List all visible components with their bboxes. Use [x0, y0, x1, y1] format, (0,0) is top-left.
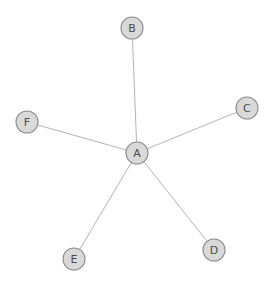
node-label-f: F: [24, 116, 31, 129]
graph-node-e[interactable]: E: [63, 248, 85, 270]
graph-svg: ABCDEF: [0, 0, 276, 283]
graph-node-c[interactable]: C: [236, 97, 258, 119]
graph-node-d[interactable]: D: [203, 239, 225, 261]
graph-edge-a-d: [144, 162, 207, 242]
graph-node-b[interactable]: B: [121, 17, 143, 39]
graph-canvas: ABCDEF: [0, 0, 276, 283]
node-layer: ABCDEF: [16, 17, 258, 270]
node-label-b: B: [128, 22, 136, 35]
graph-edge-a-e: [80, 162, 132, 249]
node-label-a: A: [133, 147, 141, 160]
node-label-d: D: [210, 244, 219, 257]
node-label-e: E: [70, 253, 77, 266]
graph-edge-a-f: [38, 125, 127, 150]
graph-edge-a-b: [132, 39, 136, 142]
graph-edge-a-c: [147, 112, 237, 149]
graph-node-f[interactable]: F: [16, 111, 38, 133]
node-label-c: C: [243, 102, 251, 115]
graph-node-a[interactable]: A: [126, 142, 148, 164]
